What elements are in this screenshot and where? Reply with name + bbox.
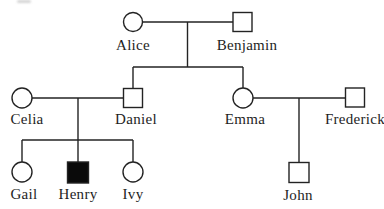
person-node-john <box>289 163 309 183</box>
person-label-celia: Celia <box>10 111 43 127</box>
person-node-ivy <box>123 162 143 182</box>
person-node-alice <box>124 13 143 32</box>
person-label-ivy: Ivy <box>123 186 144 202</box>
person-label-emma: Emma <box>225 111 265 127</box>
person-node-emma <box>233 88 253 108</box>
pedigree-figure: AliceBenjaminCeliaDanielEmmaFrederickGai… <box>0 0 384 209</box>
person-label-frederick: Frederick <box>325 111 384 127</box>
person-label-benjamin: Benjamin <box>217 37 278 53</box>
person-node-benjamin <box>233 13 252 32</box>
person-label-alice: Alice <box>116 37 150 53</box>
person-node-frederick <box>346 88 365 107</box>
person-node-gail <box>12 162 32 182</box>
person-label-daniel: Daniel <box>115 111 157 127</box>
person-label-john: John <box>283 187 313 203</box>
person-node-henry <box>68 162 89 183</box>
person-label-gail: Gail <box>10 186 37 202</box>
pedigree-svg: AliceBenjaminCeliaDanielEmmaFrederickGai… <box>0 0 384 209</box>
person-node-daniel <box>124 89 143 108</box>
person-node-celia <box>12 88 32 108</box>
person-label-henry: Henry <box>59 186 98 202</box>
